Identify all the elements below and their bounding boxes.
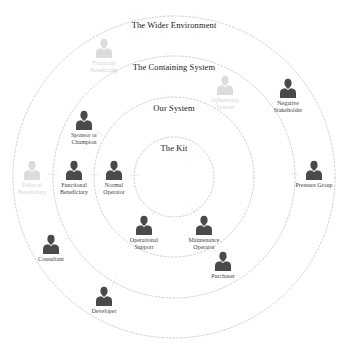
actor-financial-beneficiary: Financial Beneficiary [74, 38, 134, 74]
actor-developer: Developer [74, 286, 134, 315]
person-icon [95, 38, 113, 58]
actor-label: Maintenance Operator [174, 237, 234, 251]
person-icon [135, 215, 153, 235]
actor-label: Developer [74, 308, 134, 315]
ring-title-wider-environment: The Wider Environment [132, 20, 217, 30]
person-icon [105, 160, 123, 180]
actor-sponsor-or-champion: Sponsor or Champion [54, 110, 114, 146]
actor-label: Negative Stakeholder [258, 100, 318, 114]
actor-label: Normal Operator [84, 182, 144, 196]
person-icon [279, 78, 297, 98]
actor-label: Financial Beneficiary [74, 60, 134, 74]
connector-maintenance-operator [191, 206, 196, 215]
person-icon [216, 75, 234, 95]
ring-title-the-kit: The Kit [161, 143, 188, 153]
actor-purchaser: Purchaser [193, 251, 253, 280]
actor-label: Influencing System [195, 97, 255, 111]
actor-pressure-group: Pressure Group [284, 160, 344, 189]
actor-label: Purchaser [193, 273, 253, 280]
actor-label: Sponsor or Champion [54, 132, 114, 146]
actor-consultant: Consultant [21, 234, 81, 263]
actor-label: Pressure Group [284, 182, 344, 189]
actor-label: Operational Support [114, 237, 174, 251]
person-icon [95, 286, 113, 306]
ring-title-our-system: Our System [153, 103, 194, 113]
actor-operational-support: Operational Support [114, 215, 174, 251]
person-icon [195, 215, 213, 235]
person-icon [65, 160, 83, 180]
person-icon [305, 160, 323, 180]
ring-title-containing-system: The Containing System [133, 62, 215, 72]
actor-label: Consultant [21, 256, 81, 263]
person-icon [214, 251, 232, 271]
actor-influencing-system: Influencing System [195, 75, 255, 111]
actor-normal-operator: Normal Operator [84, 160, 144, 196]
actor-maintenance-operator: Maintenance Operator [174, 215, 234, 251]
person-icon [42, 234, 60, 254]
person-icon [75, 110, 93, 130]
person-icon [23, 160, 41, 180]
actor-negative-stakeholder: Negative Stakeholder [258, 78, 318, 114]
